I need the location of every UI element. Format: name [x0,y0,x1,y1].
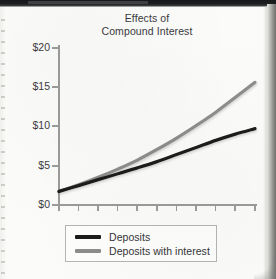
page-binding-perforations [1,19,5,277]
chart-legend: Deposits Deposits with interest [65,225,217,262]
legend-item-deposits-with-interest: Deposits with interest [66,244,216,258]
page-right-edge-shadow [267,4,276,279]
legend-swatch-deposits [75,235,101,239]
page-top-edge-shadow [0,0,276,7]
legend-swatch-deposits-with-interest [75,249,101,252]
compound-interest-line-chart: Effects of Compound Interest $20 $15 $10… [7,7,267,279]
legend-item-deposits: Deposits [66,230,216,244]
book-page: Effects of Compound Interest $20 $15 $10… [0,0,276,279]
line-deposits [59,129,255,192]
page-top-edge-sheen [28,1,148,4]
legend-label-deposits-with-interest: Deposits with interest [109,245,210,257]
legend-label-deposits: Deposits [109,231,150,243]
